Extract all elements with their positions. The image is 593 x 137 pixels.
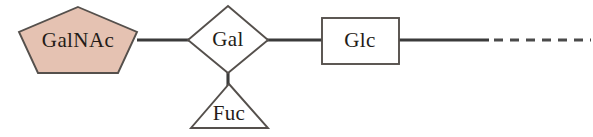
node-galnac[interactable]: GalNAc bbox=[19, 7, 137, 73]
glycan-structure-svg: GalNAc Gal Fuc Glc bbox=[0, 0, 593, 137]
node-fuc[interactable]: Fuc bbox=[191, 84, 268, 128]
gal-label: Gal bbox=[212, 27, 244, 51]
galnac-label: GalNAc bbox=[42, 28, 114, 52]
fuc-label: Fuc bbox=[213, 101, 246, 125]
node-glc[interactable]: Glc bbox=[322, 18, 399, 64]
node-gal[interactable]: Gal bbox=[188, 6, 268, 73]
glycan-diagram-canvas: GalNAc Gal Fuc Glc bbox=[0, 0, 593, 137]
glc-label: Glc bbox=[344, 28, 376, 52]
